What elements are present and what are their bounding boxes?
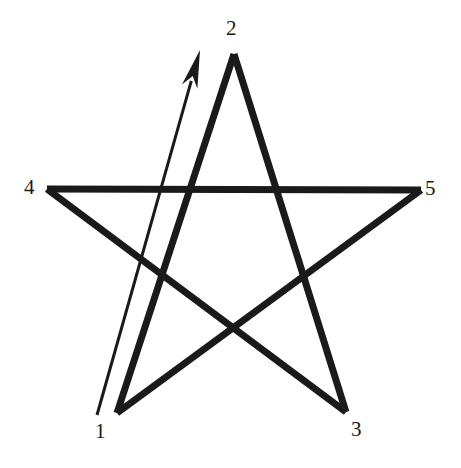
pentagram-figure: 1 2 3 4 5 — [0, 0, 461, 468]
segment-4-to-5 — [47, 189, 421, 190]
vertex-label-4: 4 — [24, 177, 35, 198]
vertex-label-5: 5 — [425, 178, 436, 199]
vertex-label-2: 2 — [226, 18, 237, 39]
pentagram-drawing — [0, 0, 461, 468]
vertex-label-3: 3 — [351, 419, 362, 440]
vertex-label-1: 1 — [95, 421, 106, 442]
